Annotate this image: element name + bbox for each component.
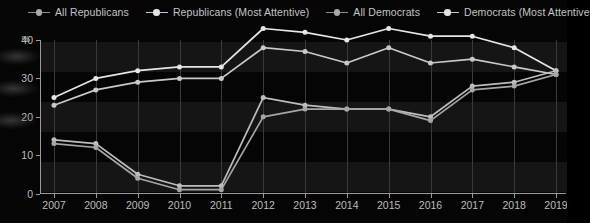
data-point — [135, 80, 140, 85]
x-tick-label: 2008 — [84, 199, 108, 211]
legend-item-all-republicans[interactable]: All Republicans — [28, 7, 129, 18]
data-point — [470, 34, 475, 39]
x-tick-label: 2016 — [419, 199, 443, 211]
data-point — [219, 64, 224, 69]
y-tick-label: 20 — [21, 111, 33, 123]
y-tick-label: 40 — [21, 34, 33, 46]
data-point — [303, 49, 308, 54]
data-point — [135, 68, 140, 73]
data-point — [428, 118, 433, 123]
data-point — [52, 141, 57, 146]
y-tick-label: 0 — [27, 188, 33, 200]
data-point — [512, 45, 517, 50]
data-point — [261, 114, 266, 119]
data-point — [470, 87, 475, 92]
data-point — [261, 26, 266, 31]
x-tick-label: 2010 — [168, 199, 192, 211]
data-point — [303, 107, 308, 112]
data-point — [554, 72, 559, 77]
data-point — [219, 76, 224, 81]
data-point — [219, 187, 224, 192]
data-point — [470, 57, 475, 62]
y-tick-label: 30 — [21, 72, 33, 84]
data-point — [177, 76, 182, 81]
x-tick-label: 2019 — [544, 199, 567, 211]
y-tick-label: 10 — [21, 149, 33, 161]
x-tick-label: 2018 — [502, 199, 526, 211]
data-point — [93, 76, 98, 81]
data-point — [303, 30, 308, 35]
x-tick-label: 2009 — [126, 199, 150, 211]
line-chart-svg: % 403020100 2007200820092010201120122013… — [0, 24, 567, 223]
data-point — [135, 176, 140, 181]
legend-marker-icon — [437, 7, 459, 17]
x-tick-label: 2011 — [210, 199, 233, 211]
background-bands — [40, 42, 567, 192]
x-tick-label: 2014 — [335, 199, 359, 211]
data-point — [386, 45, 391, 50]
data-point — [52, 103, 57, 108]
legend-label: Democrats (Most Attentive — [464, 7, 590, 18]
data-point — [386, 26, 391, 31]
legend-item-all-democrats[interactable]: All Democrats — [326, 7, 420, 18]
legend-item-democrats-most-attentive[interactable]: Democrats (Most Attentive — [437, 7, 590, 18]
plot-area: % 403020100 2007200820092010201120122013… — [0, 24, 567, 223]
legend-label: All Republicans — [55, 7, 129, 18]
data-point — [261, 45, 266, 50]
data-point — [344, 38, 349, 43]
data-point — [344, 61, 349, 66]
data-point — [344, 107, 349, 112]
data-point — [428, 61, 433, 66]
legend-label: All Democrats — [353, 7, 420, 18]
data-point — [512, 84, 517, 89]
x-tick-label: 2007 — [42, 199, 66, 211]
legend-item-republicans-most-attentive[interactable]: Republicans (Most Attentive) — [146, 7, 309, 18]
data-point — [177, 187, 182, 192]
data-point — [93, 87, 98, 92]
data-point — [52, 95, 57, 100]
x-tick-label: 2013 — [293, 199, 317, 211]
x-tick-label: 2017 — [461, 199, 485, 211]
legend-label: Republicans (Most Attentive) — [173, 7, 309, 18]
chart-legend: All Republicans Republicans (Most Attent… — [0, 0, 567, 24]
data-point — [93, 145, 98, 150]
data-point — [261, 95, 266, 100]
data-point — [428, 34, 433, 39]
x-axis-labels: 2007200820092010201120122013201420152016… — [42, 199, 567, 211]
data-point — [512, 64, 517, 69]
y-axis-labels: 403020100 — [21, 34, 33, 200]
legend-marker-icon — [28, 7, 50, 17]
legend-marker-icon — [326, 7, 348, 17]
x-tick-label: 2015 — [377, 199, 401, 211]
legend-marker-icon — [146, 7, 168, 17]
x-tick-label: 2012 — [251, 199, 275, 211]
data-point — [177, 64, 182, 69]
data-point — [386, 107, 391, 112]
